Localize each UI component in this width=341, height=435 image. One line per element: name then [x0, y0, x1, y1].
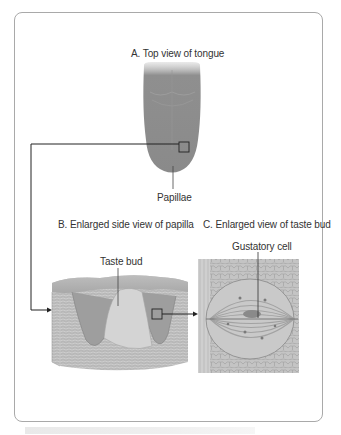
tongue-illustration [143, 62, 200, 189]
faded-caption-strip [25, 427, 255, 434]
taste-bud-illustration [198, 252, 299, 373]
diagram-artwork [0, 0, 341, 435]
papilla-block-illustration [52, 268, 188, 370]
